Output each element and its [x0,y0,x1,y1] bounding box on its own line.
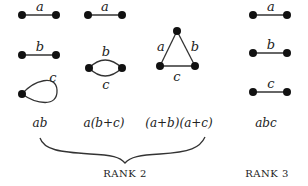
edge-label: b [102,44,110,59]
edge-label: a [267,0,275,14]
edge-label: a [36,0,44,14]
vertex [191,62,199,70]
expression: ab [33,116,48,130]
vertex [85,64,93,72]
edge-label: c [173,69,181,84]
column-4: a b c abc [249,0,291,130]
column-2: a b c a(b+c) [84,0,126,130]
curly-brace [40,137,205,163]
vertex [18,90,26,98]
edge-label: b [267,37,275,52]
vertex [283,11,291,19]
vertex [118,64,126,72]
edge-label: b [191,39,199,54]
vertex [173,27,181,35]
expression: a(b+c) [84,116,125,130]
vertex [249,49,257,57]
graph-edge-c: c [249,76,291,96]
expression: abc [255,116,277,130]
vertex [52,51,60,59]
matroid-rank-diagram: a b c ab a b c a(b+c) [0,0,308,186]
rank-2-label: RANK 2 [103,168,147,179]
edge-label: c [267,76,275,91]
vertex [283,88,291,96]
vertex [283,49,291,57]
vertex [249,88,257,96]
graph-edge-a: a [249,0,291,19]
edge-label: c [102,77,110,92]
edge-label: a [101,0,109,14]
vertex [156,62,164,70]
vertex [118,11,126,19]
column-1: a b c ab [18,0,60,130]
edge-label: c [49,70,57,85]
graph-edge-b: b [18,39,60,59]
graph-loop-c: c [18,70,57,103]
vertex [84,11,92,19]
graph-parallel-edges-bc: b c [85,44,126,92]
graph-edge-a: a [18,0,60,19]
vertex [18,11,26,19]
vertex [249,11,257,19]
rank-3-label: RANK 3 [245,168,289,179]
graph-edge-b: b [249,37,291,57]
expression: (a+b)(a+c) [145,116,213,130]
edge-label: a [157,39,165,54]
vertex [52,11,60,19]
edge-label: b [36,39,44,54]
column-3: a b c (a+b)(a+c) [145,27,213,130]
graph-triangle: a b c [156,27,199,84]
graph-edge-a: a [84,0,126,19]
vertex [18,51,26,59]
